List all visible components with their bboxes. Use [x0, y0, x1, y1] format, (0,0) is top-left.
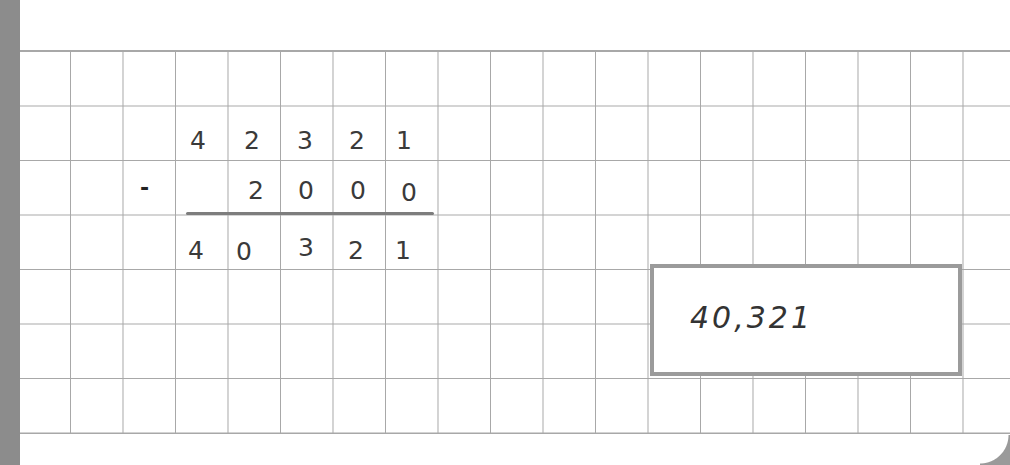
minus-sign: -: [140, 175, 149, 200]
minuend-digit: 3: [279, 126, 331, 155]
page-edge-strip: [0, 0, 20, 465]
minuend-digit: 2: [226, 126, 278, 155]
minuend-digit: 2: [331, 126, 383, 155]
difference-digit: 2: [330, 236, 382, 265]
subtrahend-digit: 0: [332, 176, 384, 205]
difference-digit: 1: [377, 236, 429, 265]
subtrahend-digit: 0: [280, 176, 332, 205]
subtrahend-digit: 0: [383, 178, 435, 207]
subtraction-underline: [186, 212, 434, 215]
page-corner: [980, 435, 1010, 465]
minuend-digit: 4: [172, 126, 224, 155]
answer-box: 40,321: [650, 264, 962, 376]
answer-value: 40,321: [690, 300, 813, 335]
difference-digit: 0: [218, 237, 270, 266]
subtrahend-digit: 2: [230, 176, 282, 205]
difference-digit: 4: [170, 236, 222, 265]
difference-digit: 3: [280, 233, 332, 262]
minuend-digit: 1: [378, 126, 430, 155]
graph-paper-grid: [20, 50, 1010, 434]
